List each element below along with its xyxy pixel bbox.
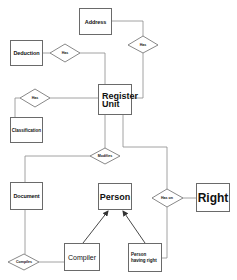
entity-deduction-label: Deduction (14, 50, 40, 56)
entity-document: Document (10, 182, 43, 210)
connector-classification-has (15, 98, 20, 117)
entity-person: Person (98, 183, 132, 210)
relationship-label-has-address: Has (140, 43, 147, 47)
relationship-label-modifies: Modifies (98, 154, 113, 158)
connector-has-register (80, 53, 105, 84)
entity-person-label: Person (100, 192, 131, 202)
connector-modifies-document (25, 156, 90, 182)
inheritance-arrow-compiler-person (83, 211, 108, 243)
entity-right: Right (196, 183, 230, 212)
entity-person-having-right: Person having right (128, 243, 162, 272)
entity-classification: Classification (10, 117, 43, 143)
entity-register-unit: Register Unit (98, 84, 132, 115)
entity-deduction: Deduction (10, 40, 43, 66)
relationship-label-has-deduction: Has (62, 51, 69, 55)
connector-address-has (112, 21, 143, 36)
entity-register-unit-label: Register Unit (102, 92, 138, 108)
entity-address-label: Address (85, 19, 106, 25)
entity-person-having-right-label: Person having right (131, 252, 161, 264)
inheritance-arrow-personright-person (123, 211, 145, 243)
entity-classification-label: Classification (12, 128, 41, 133)
connector-hason-personright (162, 207, 167, 258)
entity-right-label: Right (198, 191, 229, 205)
relationship-label-compiles: Compiles (16, 260, 32, 264)
relationship-label-has-classification: Has (32, 96, 39, 100)
relationship-label-has-on: Has on (161, 196, 173, 200)
entity-address: Address (79, 8, 112, 35)
connector-register-hason (123, 115, 167, 189)
entity-compiler-label: Compiler (68, 254, 96, 261)
entity-document-label: Document (13, 193, 39, 199)
entity-compiler: Compiler (64, 243, 100, 271)
